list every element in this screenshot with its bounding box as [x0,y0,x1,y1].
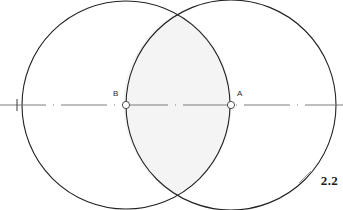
figure-container: B A 2.2 [0,0,343,210]
point-marker-b [122,101,129,108]
point-label-b: B [113,89,119,98]
lens-overlap-region [124,13,232,196]
point-marker-a [227,101,234,108]
caption-guide-stroke [299,171,311,183]
construction-drawing [0,0,343,210]
point-label-a: A [237,89,243,98]
figure-number-caption: 2.2 [321,173,338,188]
